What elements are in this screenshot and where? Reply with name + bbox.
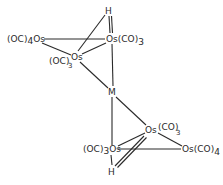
bond-m-osup [116,97,146,125]
atom-label-bot-h: H [108,167,115,177]
bond-h-os3-a [109,16,110,33]
bond-os4-osmid [42,43,71,55]
atom-label-top-os-left: (OC)4Os [7,34,45,46]
atom-label-bot-os-upper: Os (CO) 3 [145,122,180,137]
atom-label-top-h: H [105,6,112,16]
svg-text:Os(CO)4: Os(CO)4 [182,144,220,157]
atom-label-bot-os-right: Os(CO)4 [182,144,220,157]
svg-text:Os: Os [71,52,83,62]
svg-text:Os: Os [145,125,157,135]
bond-h-os3-b [112,16,113,33]
bond-osup-h-b [118,138,147,168]
bond-osmid-m [80,62,108,88]
atom-label-top-os-mid: Os (OC) 3 [49,52,83,70]
svg-text:(OC)3Os: (OC)3Os [83,144,121,156]
cluster-structure-diagram: H (OC)4Os Os(CO)3 Os (OC) 3 M Os (CO) 3 … [0,0,223,185]
svg-text:(OC): (OC) [49,56,69,66]
atom-label-metal: M [108,87,116,97]
bond-osll-h [111,155,112,165]
svg-text:(OC)4Os: (OC)4Os [7,34,45,46]
svg-text:3: 3 [176,129,180,137]
svg-text:3: 3 [68,62,72,70]
bond-osmid-os3 [82,43,106,54]
atom-label-bot-os-left: (OC)3Os [83,144,121,156]
bond-os3-m [112,44,113,86]
